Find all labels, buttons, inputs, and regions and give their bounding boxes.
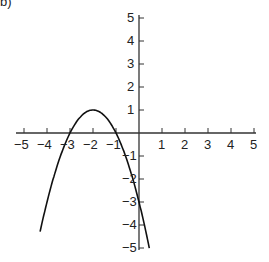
- x-tick-label: −5: [14, 138, 29, 151]
- x-tick-label: 3: [204, 138, 211, 151]
- y-tick-label: −1: [122, 149, 137, 162]
- x-tick-label: 4: [227, 138, 234, 151]
- x-tick-label: 5: [250, 138, 257, 151]
- y-tick-label: −2: [122, 172, 137, 185]
- x-tick-label: −2: [83, 138, 98, 151]
- chart: b) −5−4−3−2−11234554321−1−2−3−4−5: [0, 0, 269, 262]
- y-tick-label: −5: [122, 241, 137, 254]
- x-tick-label: −1: [106, 138, 121, 151]
- y-tick-label: 1: [127, 103, 134, 116]
- y-tick-label: 4: [127, 34, 134, 47]
- y-tick-label: 5: [127, 11, 134, 24]
- x-tick-label: 2: [181, 138, 188, 151]
- x-tick-label: −4: [37, 138, 52, 151]
- x-tick-label: −3: [60, 138, 75, 151]
- x-tick-label: 1: [158, 138, 165, 151]
- y-tick-label: −3: [122, 195, 137, 208]
- y-tick-label: 2: [127, 80, 134, 93]
- y-tick-label: 3: [127, 57, 134, 70]
- y-tick-label: −4: [122, 218, 137, 231]
